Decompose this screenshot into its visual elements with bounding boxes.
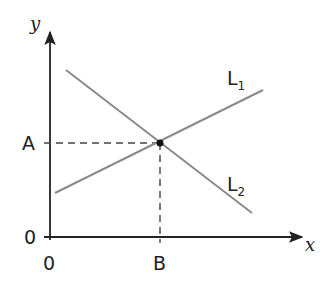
y-axis-label: y xyxy=(29,13,41,34)
x-tick-label-B: B xyxy=(153,252,166,274)
L1-label-sub: 1 xyxy=(238,79,246,93)
origin-x-label: 0 xyxy=(43,252,55,274)
L2-label-main: L xyxy=(227,173,238,195)
origin-y-label: 0 xyxy=(24,226,36,248)
L1-label-main: L xyxy=(227,67,238,89)
intersection-point xyxy=(157,140,164,147)
L1-label: L1 xyxy=(227,67,245,93)
y-tick-label-A: A xyxy=(22,132,35,154)
x-axis-label: x xyxy=(305,234,315,255)
diagram: y x A B 0 0 L1 L2 xyxy=(0,0,324,288)
L2-label-sub: 2 xyxy=(238,185,246,199)
